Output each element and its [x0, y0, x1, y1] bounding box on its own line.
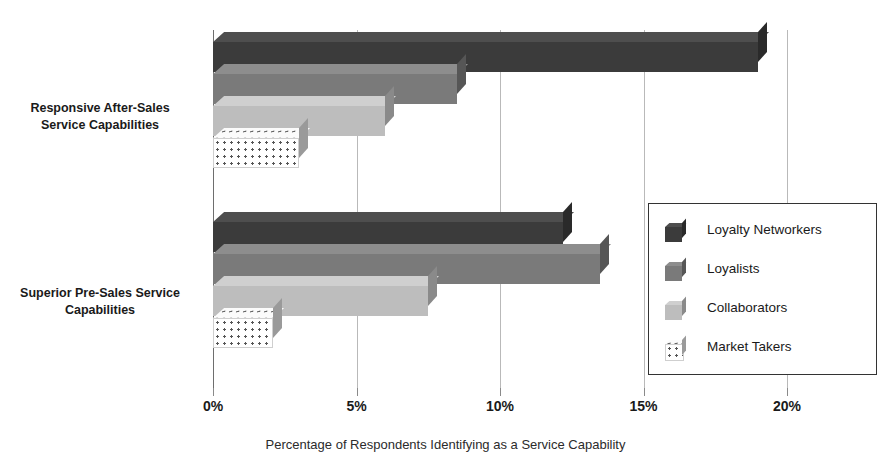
bar-side — [758, 22, 767, 62]
legend-swatch-side — [682, 336, 686, 355]
x-axis-tick-label: 15% — [614, 398, 674, 414]
legend-swatch-side — [682, 258, 686, 277]
legend-label: Market Takers — [707, 339, 792, 354]
x-axis-tick — [213, 388, 214, 396]
bar-top — [213, 32, 769, 42]
x-axis-tick — [357, 388, 358, 396]
x-axis-tick-label: 0% — [183, 398, 243, 414]
legend-swatch-icon — [665, 301, 686, 320]
bar-face — [213, 138, 299, 168]
bar-top — [213, 96, 396, 106]
legend-swatch-side — [682, 297, 686, 316]
bar-top — [213, 128, 310, 138]
legend-swatch-icon — [665, 340, 686, 359]
bar-face — [213, 318, 273, 348]
bar-top — [213, 212, 574, 222]
legend: Loyalty NetworkersLoyalistsCollaborators… — [648, 203, 877, 375]
x-axis-tick — [644, 388, 645, 396]
x-axis-tick — [500, 388, 501, 396]
x-axis-tick-label: 5% — [327, 398, 387, 414]
category-label: Responsive After-SalesService Capabiliti… — [0, 100, 205, 134]
category-label-line: Responsive After-Sales — [0, 100, 205, 117]
bar-top — [213, 64, 468, 74]
x-axis-tick-label: 20% — [757, 398, 817, 414]
bar — [213, 318, 273, 348]
gridline — [644, 30, 645, 390]
legend-swatch-face — [665, 227, 682, 242]
legend-swatch-icon — [665, 262, 686, 281]
bar-side — [563, 202, 572, 242]
x-axis-title: Percentage of Respondents Identifying as… — [0, 437, 891, 453]
bar-side — [600, 234, 609, 274]
legend-swatch-face — [665, 305, 682, 320]
gridline — [500, 30, 501, 390]
legend-label: Loyalty Networkers — [707, 222, 822, 237]
bar-top — [213, 244, 612, 254]
chart-page: Responsive After-SalesService Capabiliti… — [0, 0, 891, 453]
x-axis-tick-label: 10% — [470, 398, 530, 414]
category-label-line: Superior Pre-Sales Service — [0, 285, 205, 302]
legend-swatch-icon — [665, 223, 686, 242]
category-label: Superior Pre-Sales ServiceCapabilities — [0, 285, 205, 319]
category-label-line: Service Capabilities — [0, 117, 205, 134]
bar-top — [213, 276, 439, 286]
legend-swatch-side — [682, 219, 686, 238]
x-axis-tick — [787, 388, 788, 396]
legend-label: Loyalists — [707, 261, 760, 276]
bar — [213, 138, 299, 168]
legend-label: Collaborators — [707, 300, 787, 315]
legend-swatch-face — [665, 266, 682, 281]
category-label-line: Capabilities — [0, 302, 205, 319]
